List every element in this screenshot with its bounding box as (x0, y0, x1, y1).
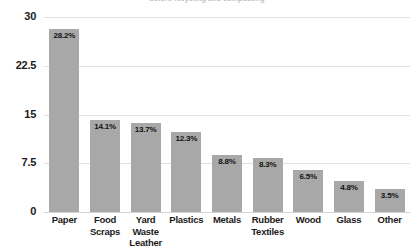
bar-slot: 14.1% (85, 17, 125, 212)
x-axis-category-label: Other (370, 214, 410, 226)
bar-slot: 28.2% (44, 17, 84, 212)
x-axis-category-label: Glass (329, 214, 369, 226)
bar-value-label: 8.3% (259, 160, 276, 169)
chart-title: before recycling and composting (0, 0, 414, 3)
x-axis-category-label: Paper (44, 214, 84, 226)
y-axis-tick-label: 7.5 (0, 156, 36, 168)
x-axis-category-line: Textiles (248, 226, 288, 238)
x-axis-category-line: Glass (329, 214, 369, 226)
bar[interactable]: 6.5% (293, 170, 323, 212)
bar-slot: 12.3% (166, 17, 206, 212)
x-axis-category-line: Rubber (248, 214, 288, 226)
bar[interactable]: 4.8% (334, 181, 364, 212)
bar[interactable]: 12.3% (171, 132, 201, 212)
bar[interactable]: 14.1% (90, 120, 120, 212)
x-axis-category-line: Scraps (85, 226, 125, 238)
x-axis-category-line: Plastics (166, 214, 206, 226)
bar-slot: 8.3% (248, 17, 288, 212)
x-axis-category-line: Wood (288, 214, 328, 226)
bar-value-label: 3.5% (381, 191, 398, 200)
bar-value-label: 14.1% (94, 122, 116, 131)
y-axis-tick-label: 0 (0, 205, 36, 217)
bar-slot: 13.7% (126, 17, 166, 212)
bar-slot: 8.8% (207, 17, 247, 212)
bar-value-label: 6.5% (300, 172, 317, 181)
bar[interactable]: 13.7% (131, 123, 161, 212)
bar[interactable]: 8.3% (253, 158, 283, 212)
x-axis-category-label: Metals (207, 214, 247, 226)
x-axis-labels: PaperFoodScrapsYard WasteLeatherPlastics… (44, 214, 410, 242)
bar-value-label: 13.7% (135, 125, 157, 134)
x-axis-category-label: RubberTextiles (248, 214, 288, 237)
bar[interactable]: 28.2% (49, 29, 79, 212)
x-axis-category-line: Yard Waste (126, 214, 166, 237)
plot-area: 07.51522.530 28.2%14.1%13.7%12.3%8.8%8.3… (44, 17, 410, 212)
bar-value-label: 28.2% (53, 31, 75, 40)
bar-value-label: 12.3% (175, 134, 197, 143)
bar-value-label: 8.8% (218, 157, 235, 166)
y-axis-tick-label: 30 (0, 10, 36, 22)
x-axis-category-line: Leather (126, 237, 166, 249)
bar-value-label: 4.8% (340, 183, 357, 192)
x-axis-category-line: Food (85, 214, 125, 226)
y-axis-tick-label: 22.5 (0, 59, 36, 71)
bar-slot: 3.5% (370, 17, 410, 212)
x-axis-category-label: FoodScraps (85, 214, 125, 237)
bar-series: 28.2%14.1%13.7%12.3%8.8%8.3%6.5%4.8%3.5% (44, 17, 410, 212)
bar[interactable]: 3.5% (375, 189, 405, 212)
x-axis-category-label: Wood (288, 214, 328, 226)
bar[interactable]: 8.8% (212, 155, 242, 212)
x-axis-category-label: Plastics (166, 214, 206, 226)
x-axis-category-line: Paper (44, 214, 84, 226)
gridline (44, 212, 410, 213)
bar-slot: 6.5% (288, 17, 328, 212)
bar-slot: 4.8% (329, 17, 369, 212)
y-axis-tick-label: 15 (0, 108, 36, 120)
x-axis-category-line: Other (370, 214, 410, 226)
x-axis-category-line: Metals (207, 214, 247, 226)
x-axis-category-label: Yard WasteLeather (126, 214, 166, 249)
